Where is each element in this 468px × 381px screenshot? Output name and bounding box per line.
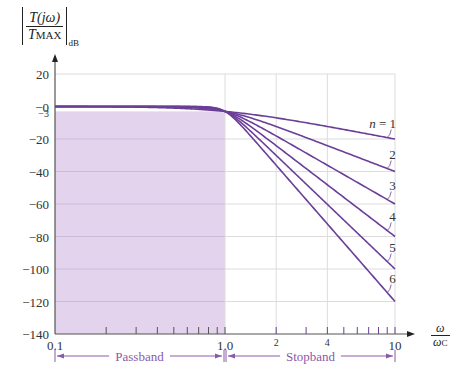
y-tick-label: 20 bbox=[36, 67, 49, 82]
y-tick-label: −60 bbox=[29, 197, 49, 212]
curve-leader-line bbox=[387, 285, 391, 293]
arrow-right-icon bbox=[215, 354, 222, 359]
x-tick-label: 4 bbox=[325, 337, 330, 348]
curve-leader-line bbox=[387, 161, 391, 169]
y-tick-label: −40 bbox=[29, 165, 49, 180]
passband-label: Passband bbox=[115, 349, 164, 364]
curve-leader-line bbox=[387, 130, 391, 138]
y-axis-arrow-icon bbox=[52, 54, 58, 62]
curve-label-n1: n = 1 bbox=[369, 116, 396, 131]
curve-label: 4 bbox=[389, 209, 396, 224]
y-tick-label: −100 bbox=[22, 262, 49, 277]
arrow-left-icon bbox=[228, 354, 235, 359]
x-label-numerator: ω bbox=[436, 322, 444, 335]
passband-fill bbox=[55, 111, 225, 334]
x-axis-label: ω ωC bbox=[431, 322, 450, 350]
curve-label: 2 bbox=[389, 147, 396, 162]
y-tick-label: −120 bbox=[22, 295, 49, 310]
passband-shaded-area bbox=[55, 111, 225, 334]
curve-label: 6 bbox=[389, 271, 396, 286]
x-label-denominator: ωC bbox=[431, 335, 450, 350]
x-tick-label: 2 bbox=[274, 337, 279, 348]
y-tick-label: −20 bbox=[29, 132, 49, 147]
y-tick-label: −3 bbox=[38, 108, 49, 119]
x-tick-label: 1.0 bbox=[217, 338, 233, 353]
x-axis-arrow-icon bbox=[407, 331, 415, 337]
y-tick-label: −140 bbox=[22, 327, 49, 342]
curve-leader-line bbox=[387, 223, 391, 231]
curve-label: 3 bbox=[389, 178, 396, 193]
arrow-left-icon bbox=[57, 354, 64, 359]
curve-label: 5 bbox=[389, 240, 396, 255]
x-den-sub: C bbox=[441, 338, 447, 348]
bode-plot: n = 123456 20−0−3−20−40−60−80−100−120−14… bbox=[0, 0, 468, 381]
curve-leader-line bbox=[387, 192, 391, 200]
stopband-label: Stopband bbox=[286, 349, 336, 364]
curve-leader-line bbox=[387, 254, 391, 262]
y-tick-label: −80 bbox=[29, 230, 49, 245]
arrow-right-icon bbox=[386, 354, 393, 359]
